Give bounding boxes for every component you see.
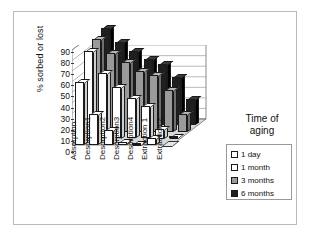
y-tick-mark <box>71 130 74 131</box>
y-tick-mark <box>71 152 74 153</box>
y-tick-mark <box>71 108 74 109</box>
y-tick-mark <box>71 74 74 75</box>
x-axis-label-extraction-2: Extraction 2 <box>155 118 164 160</box>
legend-label: 6 months <box>241 189 274 198</box>
legend-item-1-day: 1 day <box>231 148 291 160</box>
legend-swatch <box>231 177 238 184</box>
legend-label: 1 day <box>241 150 261 159</box>
legend-swatch <box>231 151 238 158</box>
legend-item-1-month: 1 month <box>231 161 291 173</box>
y-tick-mark <box>71 63 74 64</box>
legend-swatch <box>231 190 238 197</box>
legend-box: 1 day1 month3 months6 months <box>226 144 292 200</box>
legend-swatch <box>231 164 238 171</box>
y-tick-mark <box>71 96 74 97</box>
legend-title-line2: aging <box>228 125 296 137</box>
x-axis-label-extraction-1: Extraction 1 <box>140 118 149 160</box>
legend-title-line1: Time of <box>228 113 296 125</box>
legend-item-6-months: 6 months <box>231 187 291 199</box>
y-tick-mark <box>71 141 74 142</box>
y-tick-mark <box>71 119 74 120</box>
legend-label: 1 month <box>241 163 270 172</box>
chart-figure: % sorbed or lost 9080706050403020100 Ads… <box>0 0 311 238</box>
legend-item-3-months: 3 months <box>231 174 291 186</box>
legend-label: 3 months <box>241 176 274 185</box>
x-axis-label-desorption4: Desorption4 <box>126 117 135 160</box>
x-axis-label-desorption3: Desorption3 <box>112 117 121 160</box>
legend-title: Time of aging <box>228 113 296 137</box>
y-tick-mark <box>71 52 74 53</box>
x-axis-label-desorption2: Desorption2 <box>98 117 107 160</box>
x-axis-label-desorption1: Desorption1 <box>83 117 92 160</box>
y-tick-mark <box>71 85 74 86</box>
